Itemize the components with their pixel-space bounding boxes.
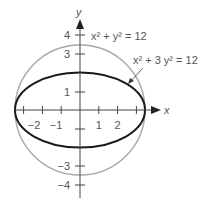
circle-equation-label: x² + y² = 12 bbox=[91, 30, 147, 42]
y-tick-label: 1 bbox=[64, 86, 70, 98]
y-tick-label: −3 bbox=[57, 160, 70, 172]
y-tick-label: 4 bbox=[64, 29, 70, 41]
x-axis-label: x bbox=[163, 104, 170, 116]
x-tick-label: 1 bbox=[96, 119, 102, 131]
conic-figure: −2 −1 1 2 4 3 1 −3 −4 x y x² + y² = 12 x… bbox=[0, 0, 212, 207]
x-tick-label: −1 bbox=[50, 119, 63, 131]
x-axis-arrow-icon bbox=[151, 106, 161, 114]
y-axis-arrow-icon bbox=[76, 19, 84, 29]
x-tick-label: 2 bbox=[115, 119, 121, 131]
x-tick-label: −2 bbox=[28, 119, 41, 131]
y-tick-label: −4 bbox=[57, 179, 70, 191]
ellipse-equation-label: x² + 3 y² = 12 bbox=[133, 54, 198, 66]
y-axis-label: y bbox=[75, 6, 83, 18]
y-tick-label: 3 bbox=[64, 48, 70, 60]
